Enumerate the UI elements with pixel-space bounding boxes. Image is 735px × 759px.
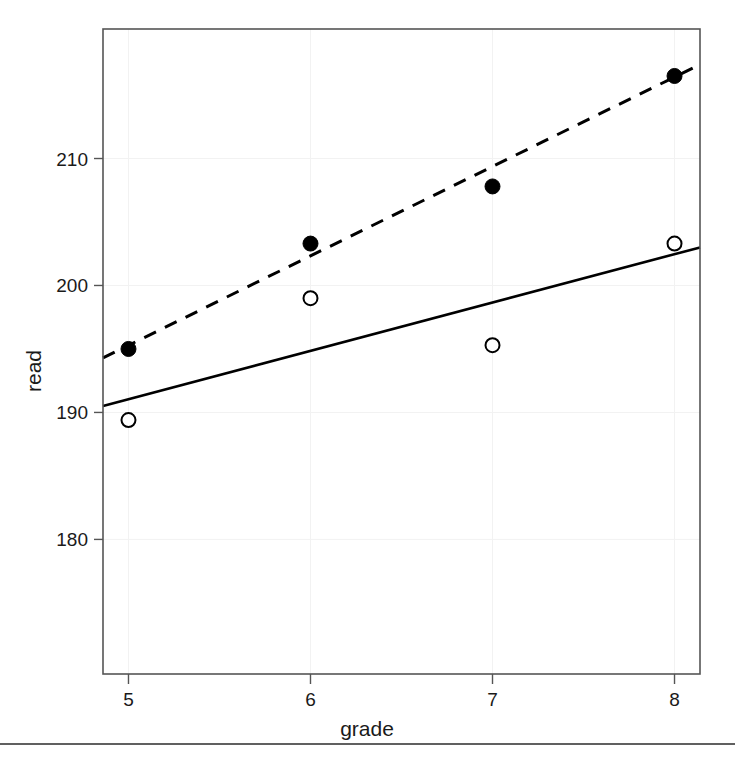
data-point-filled-circle	[121, 341, 136, 356]
data-point-open-circle	[486, 338, 500, 352]
chart-figure: 180190200210 5678 grade read	[0, 0, 735, 759]
x-tick-label: 7	[487, 689, 498, 710]
data-point-filled-circle	[485, 179, 500, 194]
x-tick-label: 6	[305, 689, 316, 710]
figure-background	[0, 0, 735, 759]
data-point-filled-circle	[667, 68, 682, 83]
scatter-plot: 180190200210 5678 grade read	[0, 0, 735, 759]
y-tick-label: 190	[56, 402, 88, 423]
y-tick-label: 210	[56, 149, 88, 170]
x-tick-label: 8	[669, 689, 680, 710]
data-point-filled-circle	[303, 236, 318, 251]
y-tick-label: 200	[56, 275, 88, 296]
data-point-open-circle	[303, 291, 317, 305]
data-point-open-circle	[121, 413, 135, 427]
y-axis-title: read	[22, 350, 45, 392]
x-axis-title: grade	[340, 717, 394, 740]
data-point-open-circle	[668, 237, 682, 251]
y-tick-label: 180	[56, 529, 88, 550]
x-tick-label: 5	[123, 689, 134, 710]
